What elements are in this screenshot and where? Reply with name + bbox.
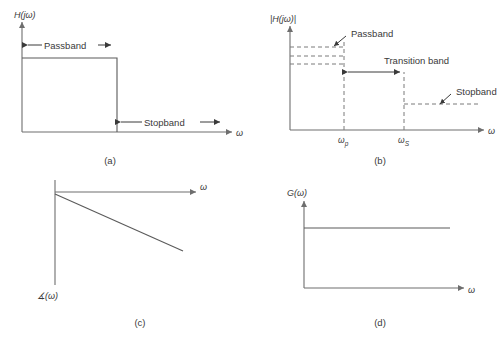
caption-d: (d) [374,317,386,328]
panel-c: ω ∡(ω) (c) [0,170,252,337]
caption-b: (b) [374,155,386,166]
y-axis-label-a: H(jω) [14,10,36,20]
y-axis-label-c: ∡(ω) [37,291,58,301]
caption-a: (a) [104,155,116,166]
passband-label-a: Passband [44,40,86,51]
figure-root: Passband Stopband H(jω) ω (a) [0,0,504,337]
passband-label-b: Passband [351,28,393,39]
stopband-leader-b [440,94,451,104]
ideal-magnitude-curve [22,58,117,132]
x-axis-label-d: ω [468,285,475,295]
omega-p-tick-label: ωp [338,135,349,148]
stopband-label-a: Stopband [144,117,185,128]
x-axis-label-a: ω [236,128,243,138]
caption-c: (c) [134,317,145,328]
omega-s-tick-label: ωS [398,135,410,147]
panel-a: Passband Stopband H(jω) ω (a) [0,0,252,170]
y-axis-label-b: |H(jω)| [270,14,296,24]
x-axis-label-b: ω [488,126,495,136]
panel-d: G(ω) ω (d) [252,170,504,337]
omega-p-sub: p [344,140,349,148]
y-axis-label-d: G(ω) [287,188,307,198]
panel-b: Passband Transition band Stopband ωp ωS … [252,0,504,170]
stopband-label-b: Stopband [456,86,497,97]
omega-s-sub: S [405,140,410,147]
phase-curve [55,194,183,251]
transition-band-label: Transition band [384,55,449,66]
x-axis-label-c: ω [200,182,207,192]
